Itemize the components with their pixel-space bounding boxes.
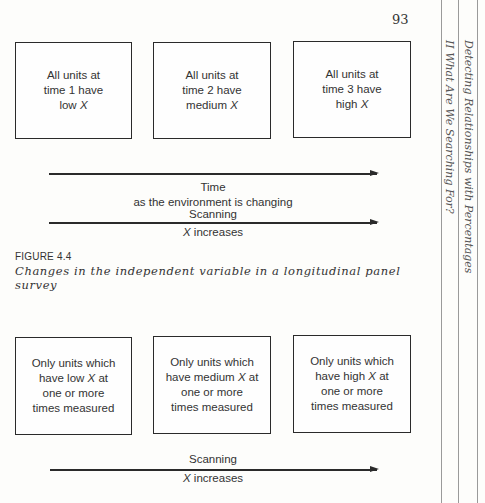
running-head-part: II What Are We Searching For? xyxy=(443,40,456,214)
box-text: high xyxy=(336,98,361,110)
time-label: Time xyxy=(49,181,377,193)
margin-rule xyxy=(477,0,478,503)
page-number: 93 xyxy=(392,12,409,27)
box-text: at xyxy=(246,371,259,383)
box-text: one or more xyxy=(32,386,116,401)
scanning-label: Scanning xyxy=(49,453,377,465)
box-text: one or more xyxy=(166,385,259,400)
margin-rule xyxy=(458,0,459,503)
box-text: All units at xyxy=(182,68,241,83)
box-text: medium xyxy=(186,99,230,111)
running-head-chapter: Detecting Relationships with Percentages xyxy=(462,40,475,273)
box-text: have medium xyxy=(166,371,238,383)
box-text: Only units which xyxy=(310,354,394,369)
time-arrow xyxy=(49,173,377,175)
box-text: time 1 have xyxy=(44,83,103,98)
box-text: at xyxy=(376,370,389,382)
x-increases-label: X increases xyxy=(49,226,377,238)
high-x-box: Only units which have high X at one or m… xyxy=(293,335,411,433)
x-increases-label: X increases xyxy=(49,472,377,484)
variable-x: X xyxy=(368,370,376,382)
box-text: Only units which xyxy=(166,355,259,370)
medium-x-box: Only units which have medium X at one or… xyxy=(153,336,271,434)
variable-x: X xyxy=(230,99,238,111)
box-text: times measured xyxy=(32,401,116,416)
box-text: low xyxy=(59,99,79,111)
box-text: All units at xyxy=(44,68,103,83)
margin-rule xyxy=(441,0,442,503)
variable-x: X xyxy=(183,472,191,484)
environment-label: as the environment is changing xyxy=(49,196,377,208)
box-text: times measured xyxy=(166,400,259,415)
box-text: All units at xyxy=(322,67,381,82)
box-text: have high xyxy=(315,370,368,382)
box-text: at xyxy=(95,372,108,384)
box-text: time 2 have xyxy=(182,83,241,98)
box-text: times measured xyxy=(310,399,394,414)
variable-x: X xyxy=(238,371,246,383)
scanning-arrow xyxy=(49,222,377,224)
low-x-box: Only units which have low X at one or mo… xyxy=(15,337,132,435)
box-text: time 3 have xyxy=(322,82,381,97)
time-3-box: All units at time 3 have high X xyxy=(293,41,411,138)
figure-number: FIGURE 4.4 xyxy=(15,251,71,262)
time-1-box: All units at time 1 have low X xyxy=(15,42,132,139)
variable-x: X xyxy=(80,99,88,111)
box-text: have low xyxy=(39,372,88,384)
scanning-label: Scanning xyxy=(49,208,377,220)
box-text: one or more xyxy=(310,384,394,399)
box-text: Only units which xyxy=(32,356,116,371)
figure-caption: Changes in the independent variable in a… xyxy=(15,264,425,292)
variable-x: X xyxy=(361,98,369,110)
variable-x: X xyxy=(183,226,191,238)
scanning-arrow xyxy=(50,469,377,471)
time-2-box: All units at time 2 have medium X xyxy=(153,42,271,139)
